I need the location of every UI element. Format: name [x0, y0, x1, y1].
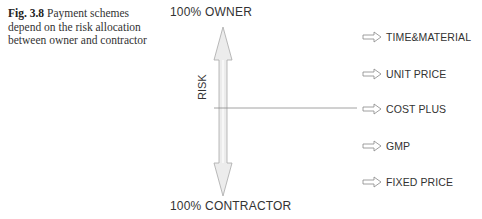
scheme-item: COST PLUS: [362, 102, 446, 116]
scheme-item: GMP: [362, 139, 410, 153]
scheme-label: UNIT PRICE: [386, 68, 446, 80]
scheme-item: FIXED PRICE: [362, 175, 453, 189]
right-arrow-icon: [362, 103, 382, 115]
scheme-label: TIME&MATERIAL: [386, 31, 471, 43]
right-arrow-icon: [362, 31, 382, 43]
right-arrow-icon: [362, 140, 382, 152]
right-arrow-icon: [362, 68, 382, 80]
scheme-label: COST PLUS: [386, 103, 446, 115]
scheme-item: TIME&MATERIAL: [362, 30, 471, 44]
scheme-label: FIXED PRICE: [386, 176, 453, 188]
scheme-label: GMP: [386, 140, 410, 152]
right-arrow-icon: [362, 176, 382, 188]
scheme-item: UNIT PRICE: [362, 67, 446, 81]
risk-axis-arrow: [214, 27, 232, 196]
axis-label: RISK: [196, 74, 208, 100]
top-label: 100% OWNER: [170, 5, 252, 19]
bottom-label: 100% CONTRACTOR: [170, 199, 291, 213]
